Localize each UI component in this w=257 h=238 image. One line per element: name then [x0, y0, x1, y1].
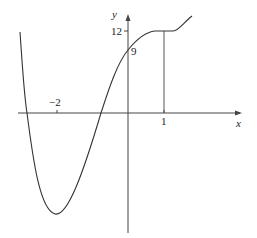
x-tick-label-neg2: −2 — [49, 97, 61, 108]
y-tick-label-12: 12 — [111, 26, 122, 37]
y-axis-arrow-icon — [126, 14, 131, 21]
x-axis-label: x — [236, 118, 241, 129]
y-axis-label: y — [112, 9, 117, 20]
y-label-9: 9 — [131, 46, 137, 57]
x-axis-arrow-icon — [235, 111, 242, 116]
x-tick-label-1: 1 — [161, 116, 167, 127]
function-graph — [0, 0, 257, 238]
